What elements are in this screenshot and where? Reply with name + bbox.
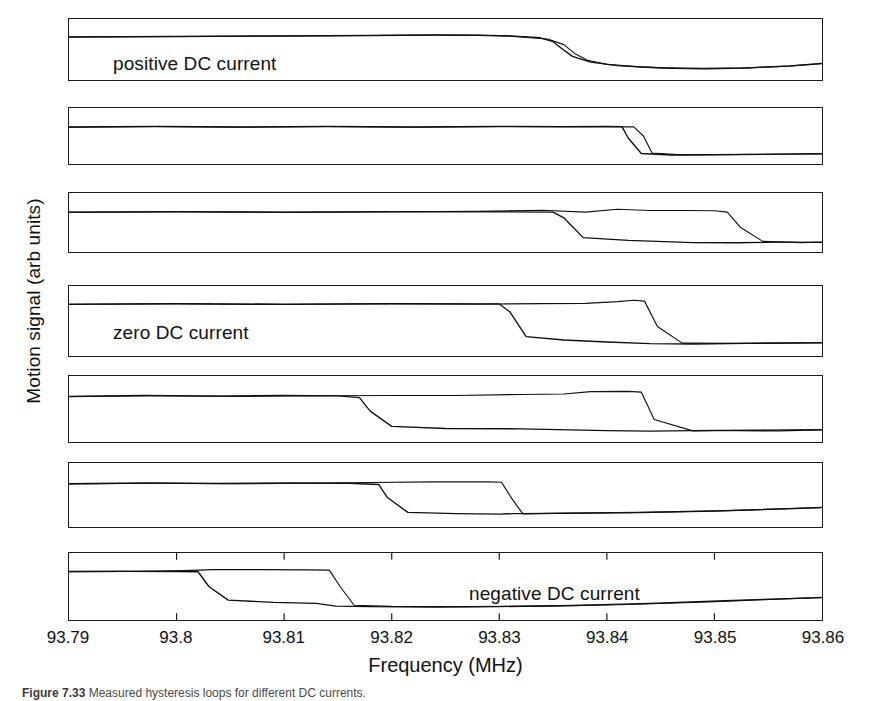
figure-caption-text: Measured hysteresis loops for different … (89, 686, 366, 700)
panel-stack: positive DC currentzero DC currentnegati… (68, 0, 823, 701)
x-tick-label-group: 93.7993.893.8193.8293.8393.8493.8593.86 (68, 628, 823, 652)
plot-panel (68, 375, 823, 443)
plot-panel: negative DC current (68, 552, 823, 621)
figure-caption: Figure 7.33 Measured hysteresis loops fo… (22, 686, 842, 700)
y-axis-title: Motion signal (arb units) (23, 91, 45, 511)
trace-canvas (69, 286, 822, 356)
trace-down-sweep (69, 483, 822, 514)
x-axis-title: Frequency (MHz) (68, 654, 823, 677)
x-tick-label: 93.84 (586, 628, 629, 648)
trace-canvas (69, 463, 822, 527)
plot-panel: zero DC current (68, 285, 823, 357)
figure-caption-number: Figure 7.33 (22, 686, 85, 700)
x-tick-label: 93.85 (694, 628, 737, 648)
trace-down-sweep (69, 396, 822, 432)
trace-up-sweep (69, 482, 822, 514)
x-tick-label: 93.86 (802, 628, 845, 648)
x-tick-label: 93.82 (370, 628, 413, 648)
x-tick-label: 93.79 (47, 628, 90, 648)
plot-panel (68, 192, 823, 253)
plot-panel (68, 462, 823, 528)
trace-canvas (69, 108, 822, 164)
trace-down-sweep (69, 126, 822, 155)
trace-up-sweep (69, 391, 822, 431)
x-tick-label: 93.8 (159, 628, 192, 648)
panel-label: zero DC current (113, 322, 249, 344)
panel-label: negative DC current (469, 583, 640, 605)
trace-canvas (69, 193, 822, 252)
x-tick-label: 93.83 (478, 628, 521, 648)
x-tick-label: 93.81 (262, 628, 305, 648)
trace-up-sweep (69, 209, 822, 242)
trace-canvas (69, 376, 822, 442)
figure-root: Motion signal (arb units) positive DC cu… (0, 0, 870, 701)
panel-label: positive DC current (113, 53, 276, 75)
trace-canvas (69, 553, 822, 620)
plot-panel (68, 107, 823, 165)
trace-up-sweep (69, 127, 822, 155)
trace-down-sweep (69, 212, 822, 243)
plot-panel: positive DC current (68, 18, 823, 81)
